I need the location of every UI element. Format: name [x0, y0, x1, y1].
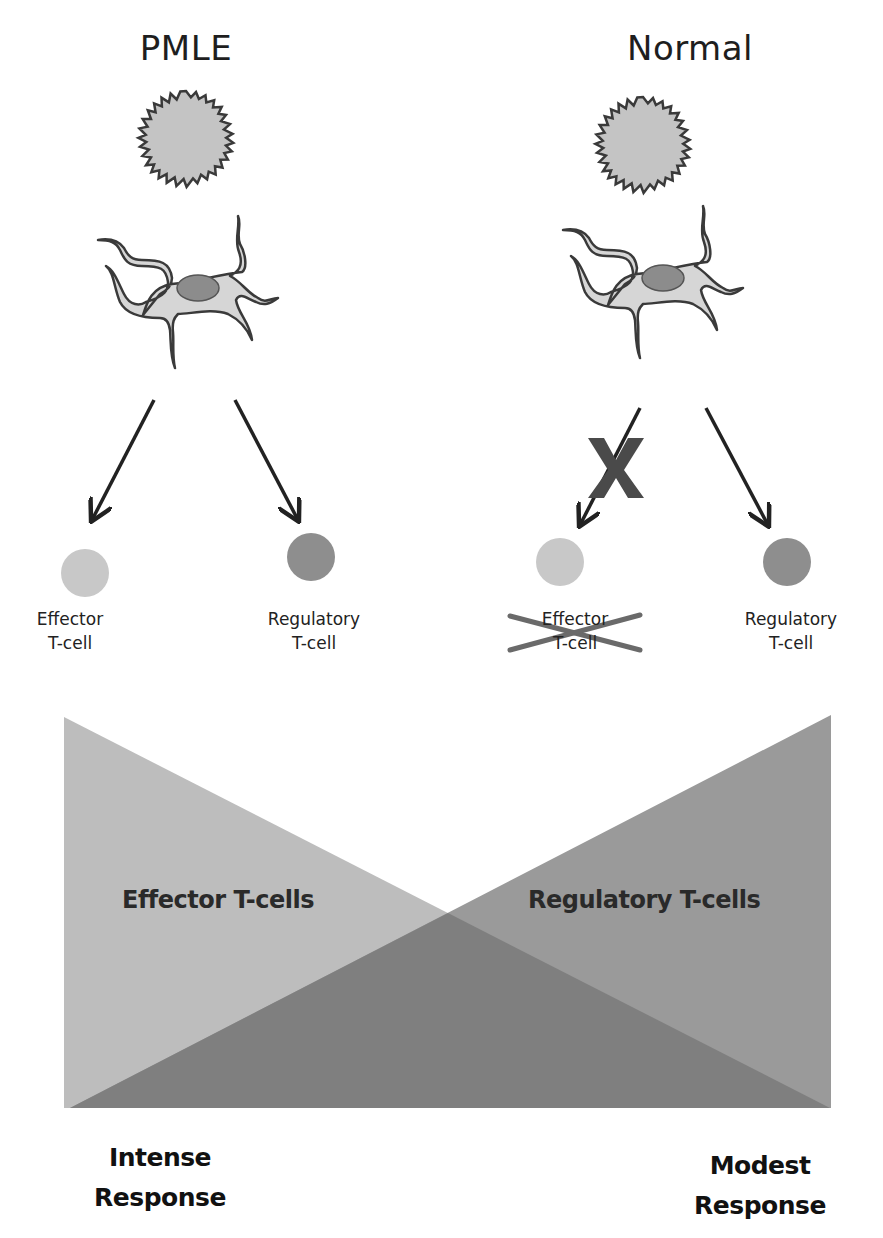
- normal-title: Normal: [590, 28, 790, 68]
- effector-tcell-right: [536, 538, 584, 586]
- effector-tcells-label: Effector T-cells: [122, 886, 314, 914]
- uv-source-left: [138, 91, 233, 187]
- arrow-to-regulatory-left: [235, 400, 298, 520]
- effector-label-left: Effector T-cell: [0, 607, 140, 655]
- regulatory-tcell-left: [287, 533, 335, 581]
- regulatory-label-left: Regulatory T-cell: [244, 607, 384, 655]
- intense-response-label: Intense Response: [60, 1138, 260, 1218]
- arrow-to-effector-left: [92, 400, 154, 520]
- effector-tcell-left: [61, 549, 109, 597]
- dendritic-cell-left: [98, 216, 278, 368]
- regulatory-tcell-right: [763, 538, 811, 586]
- regulatory-label-right: Regulatory T-cell: [721, 607, 861, 655]
- dendritic-cell-right: [563, 206, 743, 358]
- pmle-title: PMLE: [86, 28, 286, 68]
- block-x-icon: [588, 438, 644, 498]
- regulatory-tcells-label: Regulatory T-cells: [528, 886, 760, 914]
- arrow-to-regulatory-right: [706, 408, 768, 525]
- uv-source-right: [595, 97, 690, 193]
- effector-label-right: Effector T-cell: [505, 607, 645, 655]
- modest-response-label: Modest Response: [660, 1146, 860, 1226]
